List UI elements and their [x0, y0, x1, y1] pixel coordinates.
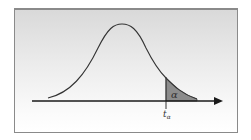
alpha-label: α — [171, 89, 178, 100]
distribution-diagram: α tα — [0, 0, 251, 140]
critical-value-label: tα — [163, 109, 171, 120]
axis-arrow-icon — [214, 97, 223, 105]
